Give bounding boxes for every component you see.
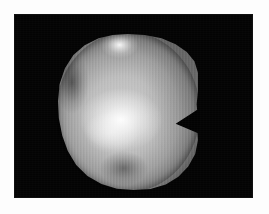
- image-page: Grayscale disc specimen image Near-circu…: [0, 0, 269, 214]
- image-canvas: [14, 14, 253, 198]
- image-white-margin: [0, 0, 269, 214]
- disc-specimen: [58, 34, 198, 190]
- disc-container: [14, 14, 253, 198]
